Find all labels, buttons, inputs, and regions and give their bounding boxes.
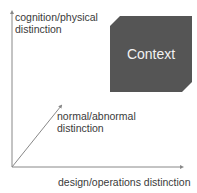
x-axis-label: design/operations distinction [58,176,191,188]
context-box: Context [110,16,192,92]
z-axis-label: normal/abnormal distinction [57,110,136,134]
z-axis-diagonal [12,106,61,167]
y-axis-label: cognition/physical distinction [15,11,98,35]
context-label: Context [127,46,175,62]
